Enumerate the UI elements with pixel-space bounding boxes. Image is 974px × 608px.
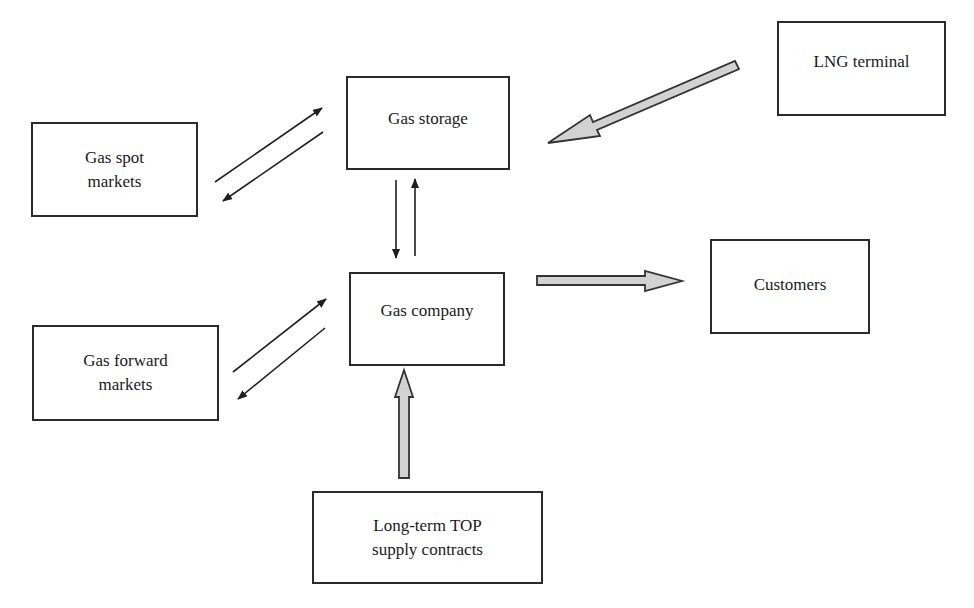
- node-customers: Customers: [710, 239, 870, 334]
- node-gas-spot-markets: Gas spot markets: [31, 122, 198, 217]
- node-label-line1: Gas spot: [85, 146, 144, 170]
- arrow-company-to-forward: [238, 328, 325, 399]
- node-label-line2: supply contracts: [372, 538, 483, 562]
- node-label-line2: markets: [88, 170, 142, 194]
- node-lng-terminal: LNG terminal: [777, 21, 946, 116]
- arrow-forward-to-company: [233, 299, 326, 372]
- block-arrow-top-to-company: [395, 370, 413, 478]
- arrow-spot-to-storage: [215, 108, 322, 182]
- node-gas-forward-markets: Gas forward markets: [32, 325, 219, 421]
- node-label-line1: Gas forward: [83, 349, 168, 373]
- node-gas-company: Gas company: [349, 272, 505, 366]
- block-arrow-lng-to-storage: [548, 61, 739, 143]
- node-gas-storage: Gas storage: [346, 76, 510, 170]
- arrow-storage-to-spot: [223, 132, 323, 201]
- block-arrow-company-to-customers: [537, 271, 682, 291]
- node-label: Gas company: [380, 299, 473, 323]
- node-label: LNG terminal: [814, 50, 910, 74]
- node-label: Gas storage: [388, 107, 468, 131]
- node-label-line2: markets: [99, 373, 153, 397]
- node-label-line1: Long-term TOP: [373, 514, 481, 538]
- diagram-canvas: Gas spot markets Gas storage LNG termina…: [0, 0, 974, 608]
- node-long-term-top-contracts: Long-term TOP supply contracts: [312, 491, 543, 584]
- node-label: Customers: [754, 273, 827, 297]
